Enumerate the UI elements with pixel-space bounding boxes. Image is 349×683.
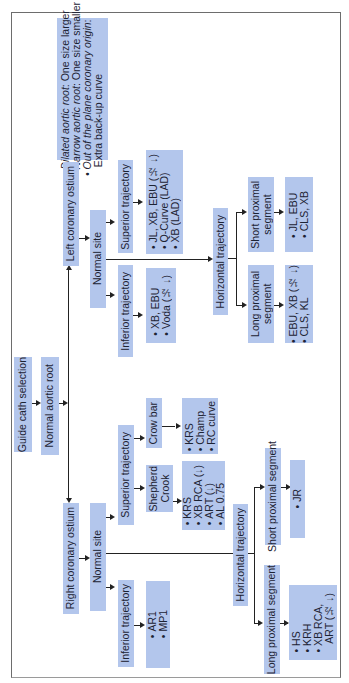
node-crowbar-caths: KRS Champ RC curve — [182, 398, 218, 454]
node-right-normal-site: Normal site — [90, 503, 106, 611]
node-label: Long proximal segment — [266, 565, 278, 674]
connector — [236, 212, 237, 306]
node-left-long-caths: EBU, XB (½ ↓) CLS, KL — [285, 265, 313, 343]
node-label: Normal aortic root — [44, 364, 56, 447]
cath-item: AL 0.75 — [215, 465, 226, 525]
node-right-inferior-caths: AR1 MP1 — [146, 581, 170, 668]
node-left-coronary-ostium: Left coronary ostium — [63, 162, 79, 266]
cath-item: MP1 — [158, 610, 169, 638]
cath-item: JR — [292, 489, 303, 508]
cath-list: JR — [292, 489, 303, 508]
node-label: Crow bar — [148, 402, 160, 445]
node-label: Superior trajectory — [120, 432, 132, 518]
cath-item: CLS, XB — [299, 191, 310, 238]
arrow-right-icon — [110, 514, 115, 520]
note-item: Extra back-up curve — [93, 2, 104, 176]
node-right-short-proximal: Short proximal segment — [265, 448, 281, 545]
node-label: Inferior trajectory — [120, 584, 132, 663]
cath-list: JL, EBU CLS, XB — [288, 191, 310, 238]
arrow-right-icon — [279, 302, 284, 308]
node-normal-aortic-root: Normal aortic root — [41, 357, 59, 455]
cath-list: AR1 MP1 — [147, 610, 169, 638]
node-label: Long proximalsegment — [250, 271, 273, 337]
cath-list: XB, EBU Voda (½ ↓) — [150, 275, 172, 336]
node-shepherd-crook: ShepherdCrook — [146, 465, 173, 512]
cath-list: JL, XB, EBU (½ ↓) Q-Curve (LAD) XB (LAD) — [148, 154, 181, 249]
cath-item: CLS, KL — [299, 265, 310, 343]
connector — [106, 553, 237, 554]
arrow-right-icon — [176, 423, 181, 429]
node-label: Superior trajectory — [120, 164, 132, 250]
cath-item: Champ — [195, 401, 206, 451]
arrow-right-icon — [110, 292, 115, 298]
node-right-short-caths: JR — [290, 460, 305, 538]
connector — [254, 487, 255, 624]
cath-item: ART (½ ↓) — [324, 593, 335, 652]
cath-item: KRS — [182, 465, 193, 525]
connector — [106, 259, 210, 260]
node-label: Right coronary ostium — [65, 507, 77, 609]
node-label: Short proximalsegment — [250, 181, 273, 249]
arrow-right-icon — [138, 312, 143, 318]
node-right-superior-trajectory: Superior trajectory — [118, 425, 134, 525]
arrow-right-icon — [279, 209, 284, 215]
node-right-coronary-ostium: Right coronary ostium — [63, 503, 79, 614]
node-label: Inferior trajectory — [120, 272, 132, 351]
arrow-right-icon — [140, 622, 145, 628]
node-label: Horizontal trajectory — [235, 508, 247, 601]
node-label: Left coronary ostium — [65, 166, 77, 261]
node-label: Guide cath selection — [17, 357, 29, 452]
cath-item: Voda (½ ↓) — [161, 275, 172, 336]
cath-item: RC curve — [206, 401, 217, 451]
node-left-inferior-trajectory: Inferior trajectory — [118, 265, 133, 357]
notes-box: Dilated aortic root: One size larger Nar… — [57, 18, 108, 160]
node-crow-bar: Crow bar — [146, 398, 162, 448]
arrow-right-icon — [110, 219, 115, 225]
node-label: Normal site — [92, 530, 104, 583]
arrow-right-icon — [242, 209, 247, 215]
cath-list: HS KRH XB RCA, ART (½ ↓) — [291, 593, 335, 652]
node-left-long-proximal: Long proximalsegment — [248, 265, 274, 343]
node-guide-cath-selection: Guide cath selection — [14, 357, 32, 452]
cath-list: EBU, XB (½ ↓) CLS, KL — [288, 265, 310, 343]
node-left-short-proximal: Short proximalsegment — [248, 177, 274, 252]
node-right-horizontal-trajectory: Horizontal trajectory — [233, 504, 248, 606]
arrow-right-icon — [140, 485, 145, 491]
node-shepherd-caths: KRS XB RCA (↓) ART (↓) AL 0.75 — [182, 461, 225, 530]
node-left-inferior-caths: XB, EBU Voda (½ ↓) — [146, 268, 176, 343]
connector — [228, 258, 236, 259]
cath-item: ART (↓) — [204, 465, 215, 525]
cath-list: KRS Champ RC curve — [184, 401, 217, 451]
cath-list: KRS XB RCA (↓) ART (↓) AL 0.75 — [182, 465, 226, 525]
cath-item: KRS — [184, 401, 195, 451]
node-label: Normal site — [92, 232, 104, 285]
node-left-normal-site: Normal site — [90, 210, 106, 308]
node-right-long-caths: HS KRH XB RCA, ART (½ ↓) — [289, 585, 337, 660]
arrow-right-icon — [258, 620, 263, 626]
node-right-long-proximal: Long proximal segment — [264, 565, 280, 674]
cath-item: XB RCA (↓) — [193, 465, 204, 525]
arrow-right-icon — [242, 302, 247, 308]
connector — [162, 426, 175, 427]
node-right-inferior-trajectory: Inferior trajectory — [118, 580, 134, 667]
node-label: Short proximal segment — [267, 441, 279, 552]
node-left-superior-caths: JL, XB, EBU (½ ↓) Q-Curve (LAD) XB (LAD) — [146, 150, 183, 254]
arrow-right-icon — [110, 584, 115, 590]
node-left-horizontal-trajectory: Horizontal trajectory — [213, 208, 228, 315]
arrow-right-icon — [138, 199, 143, 205]
arrow-right-icon — [140, 435, 145, 441]
notes-list: Dilated aortic root: One size larger Nar… — [60, 2, 104, 176]
node-label: ShepherdCrook — [148, 466, 171, 512]
node-left-short-caths: JL, EBU CLS, XB — [285, 177, 313, 252]
split-line — [68, 268, 69, 500]
node-left-superior-trajectory: Superior trajectory — [118, 160, 133, 253]
cath-item: XB (LAD) — [170, 154, 181, 249]
node-label: Horizontal trajectory — [215, 215, 227, 308]
